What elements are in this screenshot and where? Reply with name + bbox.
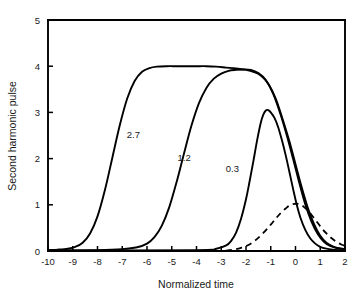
x-tick-label: -8 [93,256,101,267]
y-axis-title: Second harmonic pulse [6,81,18,191]
x-tick-label: -6 [143,256,151,267]
chart-figure: 012345 -10-9-8-7-6-5-4-3-2-1012 2.71.20.… [0,0,359,298]
x-tick-label: 1 [318,256,323,267]
y-tick-label: 0 [35,246,40,257]
x-tick-label: 0 [293,256,298,267]
chart-plot-area: 012345 -10-9-8-7-6-5-4-3-2-1012 2.71.20.… [0,0,359,298]
curve-label-group: 2.71.20.3 [127,129,239,174]
y-tick-label: 2 [35,153,40,164]
y-tick-label: 3 [35,107,40,118]
x-tick-label: -5 [168,256,176,267]
x-tick-label: -1 [267,256,275,267]
y-tick-label: 1 [35,199,40,210]
curve-label-2.7: 2.7 [127,129,140,140]
x-tick-label: -3 [217,256,225,267]
x-axis-title: Normalized time [158,278,234,290]
data-curve-2.7 [48,66,345,250]
curve-label-1.2: 1.2 [178,152,191,163]
data-series-group [48,66,345,251]
x-tick-label: -9 [69,256,77,267]
y-tick-label: 5 [35,15,40,26]
y-tick-labels: 012345 [35,15,40,257]
x-tick-label: -2 [242,256,250,267]
curve-label-0.3: 0.3 [226,163,239,174]
x-tick-labels: -10-9-8-7-6-5-4-3-2-1012 [41,256,348,267]
data-curve-1.2 [48,69,345,250]
x-tick-label: -10 [41,256,55,267]
y-tick-label: 4 [35,61,40,72]
x-tick-label: -7 [118,256,126,267]
x-tick-label: 2 [342,256,347,267]
x-tick-label: -4 [192,256,200,267]
